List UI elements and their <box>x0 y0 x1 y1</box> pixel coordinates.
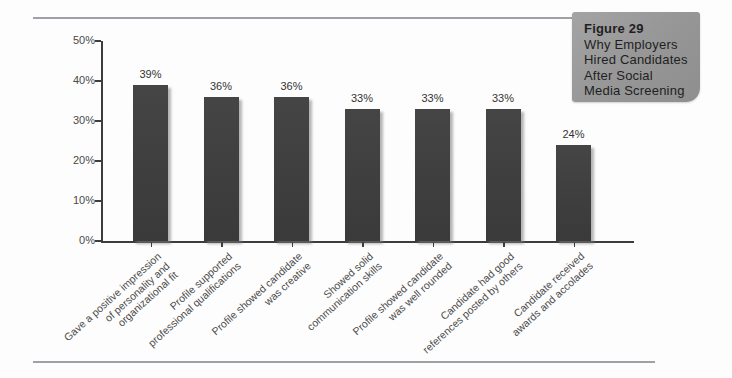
y-axis-tick-label: 10% <box>37 194 95 206</box>
y-axis-tick <box>95 160 101 162</box>
y-axis-tick-label: 50% <box>37 34 95 46</box>
y-axis-tick-label: 0% <box>37 234 95 246</box>
y-axis-tick <box>95 80 101 82</box>
y-axis-tick <box>95 40 101 42</box>
bar-value-label: 33% <box>403 92 463 104</box>
bar-value-label: 39% <box>121 68 181 80</box>
x-axis-tick <box>362 242 364 247</box>
x-axis-tick <box>151 242 153 247</box>
y-axis-tick <box>95 240 101 242</box>
y-axis-tick <box>95 200 101 202</box>
x-axis-tick <box>574 242 576 247</box>
bar-value-label: 33% <box>473 92 533 104</box>
y-axis-tick <box>95 120 101 122</box>
bar-value-label: 36% <box>191 80 251 92</box>
y-axis-tick-label: 40% <box>37 74 95 86</box>
bar <box>133 85 168 241</box>
bar <box>556 145 591 241</box>
x-axis-tick <box>503 242 505 247</box>
bar <box>204 97 239 241</box>
y-axis-tick-label: 30% <box>37 114 95 126</box>
bar <box>415 109 450 241</box>
y-axis-line <box>101 41 103 242</box>
x-axis-tick <box>292 242 294 247</box>
x-axis-tick <box>433 242 435 247</box>
bar-value-label: 24% <box>544 128 604 140</box>
bar <box>486 109 521 241</box>
bar-chart: 0%10%20%30%40%50%39%Gave a positive impr… <box>0 0 732 378</box>
bar-value-label: 36% <box>262 80 322 92</box>
bar <box>345 109 380 241</box>
bar-value-label: 33% <box>332 92 392 104</box>
y-axis-tick-label: 20% <box>37 154 95 166</box>
x-axis-line <box>101 241 634 243</box>
bar <box>274 97 309 241</box>
x-axis-tick <box>221 242 223 247</box>
